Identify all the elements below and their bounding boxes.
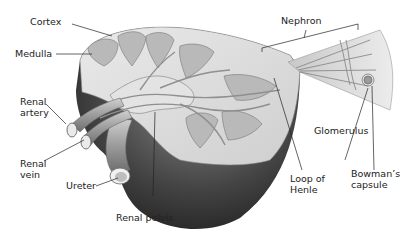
label-cortex: Cortex bbox=[30, 16, 61, 27]
kidney-diagram bbox=[0, 0, 420, 234]
glomerulus-shape bbox=[364, 76, 372, 84]
label-ureter: Ureter bbox=[66, 180, 96, 191]
renal-artery-opening bbox=[67, 123, 77, 137]
label-nephron: Nephron bbox=[281, 15, 322, 26]
label-renal-pelvis: Renal pelvis bbox=[116, 212, 173, 223]
label-renal-artery-line2: artery bbox=[20, 107, 49, 118]
ureter-lumen bbox=[115, 172, 127, 182]
label-bowmans-capsule-line2: capsule bbox=[351, 179, 388, 190]
label-medulla: Medulla bbox=[15, 48, 52, 59]
label-renal-artery-line1: Renal bbox=[20, 96, 47, 107]
label-renal-vein-line2: vein bbox=[20, 169, 40, 180]
renal-vein-opening bbox=[81, 135, 91, 149]
label-bowmans-capsule-line1: Bowman’s bbox=[351, 168, 400, 179]
label-loop-of-henle-line2: Henle bbox=[290, 184, 318, 195]
label-loop-of-henle-line1: Loop of bbox=[290, 173, 325, 184]
label-renal-vein-line1: Renal bbox=[20, 158, 47, 169]
label-glomerulus: Glomerulus bbox=[314, 125, 368, 136]
